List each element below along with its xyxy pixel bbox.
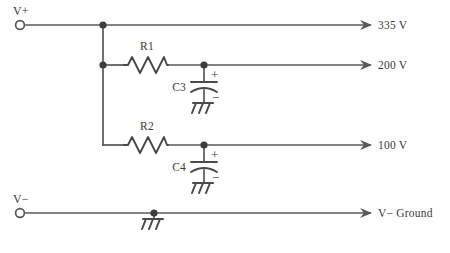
capacitor-c3-label: C3 xyxy=(172,81,186,93)
output-rail-100-label: 100 V xyxy=(378,139,408,151)
wire-group xyxy=(26,25,370,213)
capacitor-c3: C3 + − xyxy=(172,67,219,105)
ground-symbol-c3 xyxy=(192,103,213,113)
capacitor-c4-label: C4 xyxy=(172,161,186,173)
circuit-diagram-canvas: R1 R2 C3 + − C4 + − xyxy=(0,0,450,253)
terminal-ring-icon[interactable] xyxy=(16,209,25,218)
capacitor-c4-plus-sign: + xyxy=(211,147,218,162)
resistor-r1-label: R1 xyxy=(140,40,154,52)
output-rail-100: 100 V xyxy=(360,139,408,151)
resistor-r1: R1 xyxy=(124,40,168,73)
junction-node-200-bus xyxy=(99,61,106,68)
ground-icon xyxy=(192,183,213,193)
junction-node-335-bus xyxy=(99,21,106,28)
terminal-v-minus-label: V− xyxy=(13,192,29,206)
ground-icon xyxy=(192,103,213,113)
resistor-r2-zigzag xyxy=(124,137,168,153)
junction-node-c4-tap xyxy=(200,141,207,148)
ground-icon xyxy=(142,219,163,229)
output-rail-200: 200 V xyxy=(360,59,408,71)
resistor-r2-label: R2 xyxy=(140,120,154,132)
circuit-schematic-svg: R1 R2 C3 + − C4 + − xyxy=(0,0,450,253)
output-rail-200-label: 200 V xyxy=(378,59,408,71)
output-rail-335-label: 335 V xyxy=(378,19,408,31)
resistor-r2: R2 xyxy=(124,120,168,153)
junction-node-ground-tap xyxy=(150,209,157,216)
capacitor-c3-plus-sign: + xyxy=(211,67,218,82)
output-rail-335: 335 V xyxy=(360,19,408,31)
resistor-r1-zigzag xyxy=(124,57,168,73)
terminal-v-plus-label: V+ xyxy=(13,4,29,18)
ground-symbol-c4 xyxy=(192,183,213,193)
terminal-ring-icon[interactable] xyxy=(16,21,25,30)
junction-node-c3-tap xyxy=(200,61,207,68)
output-rail-ground: V− Ground xyxy=(360,207,433,219)
ground-symbol-rail xyxy=(142,219,163,229)
output-rail-ground-label: V− Ground xyxy=(378,207,433,219)
capacitor-c4: C4 + − xyxy=(172,147,219,185)
